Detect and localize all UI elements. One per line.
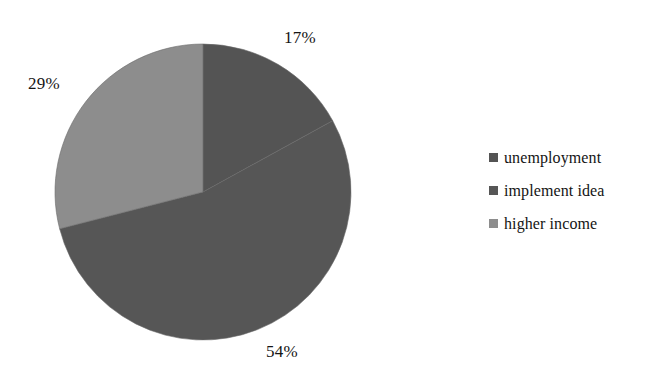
legend-label-unemployment: unemployment (504, 149, 601, 167)
legend-item-implement-idea[interactable]: implement idea (489, 174, 644, 207)
pie-plot-area (0, 0, 400, 381)
legend-swatch-implement-idea-icon (489, 186, 498, 195)
pie-chart-figure: 17% 29% 54% unemployment implement idea … (0, 0, 650, 381)
legend-item-higher-income[interactable]: higher income (489, 207, 644, 240)
legend-swatch-higher-income-icon (489, 219, 498, 228)
legend-item-unemployment[interactable]: unemployment (489, 141, 644, 174)
pie-slices-group (55, 44, 351, 340)
slice-label-implement-idea: 54% (266, 342, 298, 362)
legend-label-higher-income: higher income (504, 215, 597, 233)
legend-label-implement-idea: implement idea (504, 182, 604, 200)
chart-legend: unemployment implement idea higher incom… (489, 141, 644, 240)
pie-svg (0, 0, 400, 381)
legend-swatch-unemployment-icon (489, 153, 498, 162)
slice-label-unemployment: 17% (284, 28, 316, 48)
slice-label-higher-income: 29% (28, 74, 60, 94)
